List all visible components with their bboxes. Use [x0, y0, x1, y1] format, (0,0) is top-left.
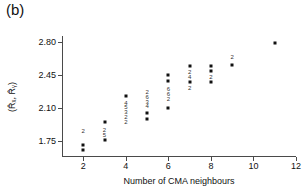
y-tick-label: 1.75 [38, 137, 56, 146]
data-point [167, 74, 170, 77]
y-axis-line [62, 36, 63, 157]
data-point [82, 148, 85, 151]
point-multiplicity-label: 2 [124, 119, 127, 125]
data-point [209, 70, 212, 73]
point-multiplicity-label: 2 [167, 96, 170, 102]
point-multiplicity-label: 4 [145, 103, 148, 109]
y-tick [58, 42, 62, 43]
data-point [124, 95, 127, 98]
point-multiplicity-label: 2 [188, 85, 191, 91]
data-point [167, 79, 170, 82]
scatter-plot-area: 1.752.102.452.80 24681012 22545322263466… [62, 36, 296, 157]
y-tick [58, 108, 62, 109]
data-point [188, 64, 191, 67]
x-tick-label: 2 [81, 162, 86, 171]
data-point [103, 120, 106, 123]
point-multiplicity-label: 2 [231, 54, 234, 60]
x-axis-title: Number of CMA neighbours [62, 176, 296, 186]
x-tick-label: 12 [291, 162, 301, 171]
data-point [231, 63, 234, 66]
y-tick-label: 2.45 [38, 71, 56, 80]
data-point [209, 64, 212, 67]
y-tick-label: 2.80 [38, 38, 56, 47]
data-point [188, 80, 191, 83]
y-axis-title: (R̂ₓ, R̂ᵧ) [7, 82, 17, 112]
data-point [209, 80, 212, 83]
x-tick-label: 6 [166, 162, 171, 171]
data-point [103, 138, 106, 141]
point-multiplicity-label: 5 [103, 132, 106, 138]
x-tick-label: 4 [123, 162, 128, 171]
point-multiplicity-label: 2 [209, 74, 212, 80]
x-tick-label: 8 [208, 162, 213, 171]
data-point [167, 106, 170, 109]
x-axis-line [62, 156, 296, 157]
figure-panel-b: (b) 1.752.102.452.80 24681012 2254532226… [0, 0, 307, 193]
data-point [273, 42, 276, 45]
data-point [146, 112, 149, 115]
y-tick [58, 141, 62, 142]
data-point [82, 143, 85, 146]
point-multiplicity-label: 4 [188, 74, 191, 80]
y-tick-label: 2.10 [38, 104, 56, 113]
y-tick [58, 75, 62, 76]
point-multiplicity-label: 2 [82, 128, 85, 134]
panel-label: (b) [6, 2, 24, 17]
data-point [146, 117, 149, 120]
x-tick-label: 10 [248, 162, 258, 171]
